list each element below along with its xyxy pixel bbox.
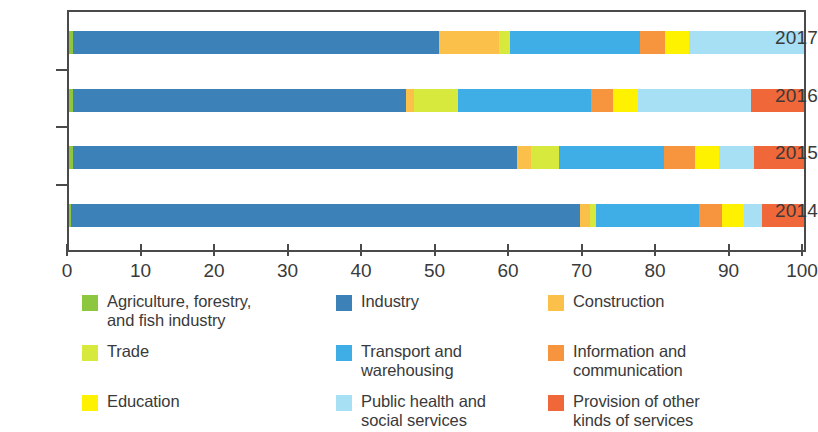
bar-row	[69, 146, 804, 169]
bar-segment	[73, 89, 407, 112]
bar-segment	[406, 89, 414, 112]
legend-label: Agriculture, forestry, and fish industry	[107, 292, 251, 330]
y-axis-tick	[56, 126, 67, 128]
bar-segment	[559, 146, 664, 169]
x-axis: 0102030405060708090100	[67, 250, 802, 251]
y-axis-label: 2015	[760, 142, 818, 164]
legend-swatch-icon	[82, 295, 98, 311]
x-axis-tick	[728, 244, 730, 256]
x-axis-tick	[434, 244, 436, 256]
bar-row	[69, 31, 804, 54]
bar-segment	[458, 89, 591, 112]
x-axis-tick	[360, 244, 362, 256]
legend-swatch-icon	[548, 345, 564, 361]
x-axis-tick	[801, 244, 803, 256]
x-axis-label: 80	[625, 260, 685, 282]
x-axis-label: 70	[552, 260, 612, 282]
chart-legend: Agriculture, forestry, and fish industry…	[66, 292, 818, 432]
bar-row	[69, 204, 804, 227]
legend-item[interactable]: Information and communication	[548, 342, 686, 380]
legend-swatch-icon	[336, 345, 352, 361]
bar-segment	[719, 146, 754, 169]
bar-segment	[638, 89, 751, 112]
x-axis-label: 40	[331, 260, 391, 282]
legend-swatch-icon	[548, 395, 564, 411]
legend-item[interactable]: Provision of other kinds of services	[548, 392, 700, 430]
legend-item[interactable]: Transport and warehousing	[336, 342, 462, 380]
legend-item[interactable]: Trade	[82, 342, 149, 361]
legend-label: Public health and social services	[361, 392, 486, 430]
bar-segment	[499, 31, 510, 54]
x-axis-tick	[581, 244, 583, 256]
x-axis-label: 60	[478, 260, 538, 282]
bar-segment	[591, 89, 613, 112]
x-axis-label: 90	[699, 260, 759, 282]
y-axis-label: 2014	[760, 200, 818, 222]
x-axis-label: 0	[37, 260, 97, 282]
x-axis-tick	[213, 244, 215, 256]
x-axis-tick	[507, 244, 509, 256]
legend-label: Provision of other kinds of services	[573, 392, 700, 430]
stacked-bars	[69, 12, 804, 250]
bar-segment	[596, 204, 699, 227]
bar-segment	[510, 31, 640, 54]
legend-swatch-icon	[82, 395, 98, 411]
bar-segment	[664, 146, 695, 169]
x-axis-tick	[140, 244, 142, 256]
legend-swatch-icon	[336, 395, 352, 411]
bar-segment	[613, 89, 638, 112]
y-axis-tick	[56, 184, 67, 186]
y-axis-tick	[56, 69, 67, 71]
bar-segment	[517, 146, 530, 169]
bar-segment	[640, 31, 665, 54]
legend-label: Industry	[361, 292, 419, 311]
x-axis-label: 20	[184, 260, 244, 282]
x-axis-label: 100	[772, 260, 818, 282]
legend-label: Transport and warehousing	[361, 342, 462, 380]
legend-item[interactable]: Construction	[548, 292, 664, 311]
x-axis-label: 50	[405, 260, 465, 282]
legend-label: Education	[107, 392, 180, 411]
bar-segment	[699, 204, 722, 227]
y-axis-label: 2016	[760, 85, 818, 107]
x-axis-label: 10	[111, 260, 171, 282]
legend-item[interactable]: Public health and social services	[336, 392, 486, 430]
bar-segment	[580, 204, 590, 227]
legend-label: Information and communication	[573, 342, 686, 380]
x-axis-tick	[66, 244, 68, 256]
legend-item[interactable]: Agriculture, forestry, and fish industry	[82, 292, 251, 330]
bar-segment	[414, 89, 457, 112]
bar-segment	[531, 146, 560, 169]
bar-segment	[722, 204, 744, 227]
x-axis-label: 30	[258, 260, 318, 282]
bar-row	[69, 89, 804, 112]
legend-item[interactable]: Education	[82, 392, 180, 411]
bar-segment	[439, 31, 499, 54]
chart-page: 2017201620152014 0102030405060708090100 …	[0, 0, 818, 432]
y-axis-label: 2017	[760, 27, 818, 49]
legend-swatch-icon	[82, 345, 98, 361]
plot-area	[67, 10, 806, 252]
bar-segment	[73, 146, 518, 169]
legend-swatch-icon	[336, 295, 352, 311]
legend-label: Trade	[107, 342, 149, 361]
bar-segment	[665, 31, 689, 54]
x-axis-tick	[654, 244, 656, 256]
x-axis-tick	[287, 244, 289, 256]
bar-segment	[73, 31, 439, 54]
legend-item[interactable]: Industry	[336, 292, 419, 311]
bar-segment	[695, 146, 719, 169]
bar-segment	[71, 204, 580, 227]
legend-swatch-icon	[548, 295, 564, 311]
legend-label: Construction	[573, 292, 664, 311]
